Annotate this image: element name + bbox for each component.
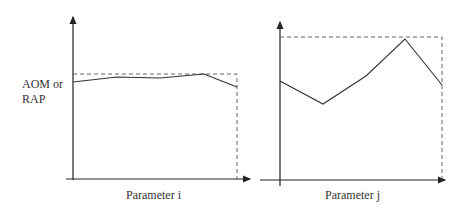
left-chart	[66, 17, 250, 180]
right-max-dashed	[280, 37, 442, 180]
right-chart	[260, 22, 445, 186]
diagram-canvas	[0, 0, 467, 214]
right-x-axis-label: Parameter j	[325, 188, 380, 203]
right-series-line	[280, 39, 442, 104]
left-max-dashed	[73, 74, 237, 179]
left-x-axis-label: Parameter i	[126, 188, 181, 203]
y-axis-label-line1: AOM or	[22, 77, 63, 92]
left-series-line	[73, 74, 237, 87]
y-axis-label-line2: RAP	[22, 92, 45, 107]
